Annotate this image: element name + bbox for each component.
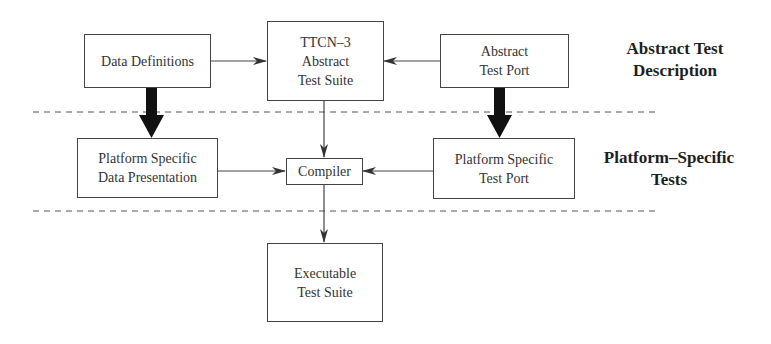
layer-label-line: Tests [596,169,742,191]
node-label: Compiler [298,162,351,181]
layer-label-abstract-test-description: Abstract Test Description [610,38,740,82]
node-ttcn3-abstract-test-suite: TTCN–3 Abstract Test Suite [267,21,384,101]
node-label-line: Test Port [479,169,529,188]
node-label-line: Test Port [480,61,530,80]
node-label-line: Test Suite [298,71,353,90]
node-data-definitions: Data Definitions [84,34,211,88]
node-compiler: Compiler [286,158,363,185]
node-label-line: TTCN–3 [300,33,351,52]
thick-arrow-datadef-to-psdp [139,87,164,138]
layer-label-line: Abstract Test [610,38,740,60]
node-label-line: Test Suite [297,283,352,302]
node-label-line: Executable [294,264,356,283]
node-platform-specific-data-presentation: Platform Specific Data Presentation [77,138,218,198]
layer-label-platform-specific-tests: Platform–Specific Tests [596,147,742,191]
node-label-line: Platform Specific [455,150,553,169]
node-platform-specific-test-port: Platform Specific Test Port [433,138,575,199]
node-label-line: Platform Specific [98,149,196,168]
node-label-line: Abstract [481,42,528,61]
node-label-line: Abstract [302,52,349,71]
node-executable-test-suite: Executable Test Suite [267,243,383,322]
node-abstract-test-port: Abstract Test Port [440,34,569,88]
node-label-line: Data Presentation [98,168,197,187]
layer-label-line: Platform–Specific [596,147,742,169]
layer-label-line: Description [610,60,740,82]
node-label: Data Definitions [101,52,194,71]
